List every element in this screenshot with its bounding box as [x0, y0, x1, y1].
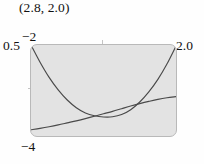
x-min-label: −2: [22, 30, 36, 44]
curve-parabola: [31, 45, 176, 117]
plot-canvas: [31, 45, 176, 136]
point-label: (2.8, 2.0): [19, 1, 70, 15]
graph-figure: (2.8, 2.0) −2 0.5 2.0 −4: [0, 0, 204, 164]
y-max-label: 0.5: [3, 39, 20, 53]
y-min-label: −4: [21, 140, 35, 154]
x-max-label: 2.0: [176, 39, 193, 53]
plot-area: [30, 44, 177, 137]
curve-rising-line: [31, 97, 176, 130]
